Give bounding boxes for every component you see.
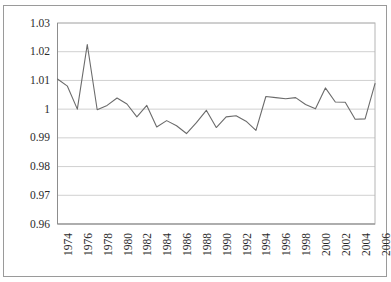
- x-tick-label-1986: 1986: [181, 233, 193, 256]
- x-tick-label-1996: 1996: [280, 233, 292, 256]
- x-tick-label-1980: 1980: [122, 233, 134, 256]
- y-tick-label-1: 1: [6, 103, 50, 115]
- plot-background: [58, 23, 376, 224]
- x-tick-label-2002: 2002: [340, 233, 352, 256]
- x-tick-label-2000: 2000: [320, 233, 332, 256]
- y-tick-label-1.02: 1.02: [6, 45, 50, 57]
- y-tick-label-0.97: 0.97: [6, 189, 50, 201]
- y-tick-label-0.99: 0.99: [6, 131, 50, 143]
- chart-figure: 1.031.021.0110.990.980.970.96 1974197619…: [0, 0, 391, 282]
- x-tick-label-1992: 1992: [241, 233, 253, 256]
- x-tick-label-2004: 2004: [360, 233, 372, 256]
- x-tick-label-1974: 1974: [62, 233, 74, 256]
- x-tick-label-2006: 2006: [380, 233, 391, 256]
- x-tick-label-1982: 1982: [141, 233, 153, 256]
- x-tick-label-1984: 1984: [161, 233, 173, 256]
- y-tick-label-1.01: 1.01: [6, 74, 50, 86]
- x-tick-label-1998: 1998: [300, 233, 312, 256]
- x-tick-label-1976: 1976: [82, 233, 94, 256]
- y-tick-label-0.96: 0.96: [6, 218, 50, 230]
- chart-plot: [0, 0, 391, 282]
- x-tick-label-1988: 1988: [201, 233, 213, 256]
- x-tick-label-1978: 1978: [102, 233, 114, 256]
- y-tick-label-1.03: 1.03: [6, 17, 50, 29]
- x-tick-label-1994: 1994: [260, 233, 272, 256]
- x-tick-label-1990: 1990: [221, 233, 233, 256]
- y-tick-label-0.98: 0.98: [6, 160, 50, 172]
